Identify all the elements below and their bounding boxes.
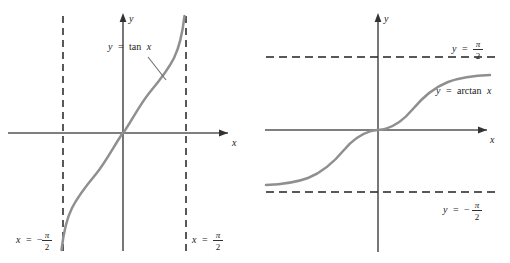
tangent-x-axis-label: x (231, 137, 237, 148)
tangent-right-asymptote-numerator: π (216, 230, 221, 240)
tangent-label-leader-line (148, 57, 166, 80)
tangent-function-label: y = tan x (107, 41, 152, 52)
tangent-right-asymptote-denominator: 2 (216, 242, 221, 252)
tangent-left-asymptote-numerator: π (45, 230, 50, 240)
arctangent-lower-asymptote-denominator: 2 (475, 212, 480, 222)
tangent-x-axis-arrowhead (219, 130, 228, 137)
arctangent-function-label: y = arctan x (435, 85, 492, 96)
arctangent-x-axis-arrowhead (478, 127, 487, 134)
arctangent-lower-asymptote-label-lhs: y = − (442, 204, 470, 215)
tangent-y-axis-label: y (128, 13, 134, 24)
math-figure-tangent-and-arctangent: x y y = tan x x = − π 2 (0, 0, 510, 263)
tangent-x-axis (8, 130, 228, 137)
tangent-left-asymptote-label: x = − π 2 (15, 230, 52, 252)
tangent-panel: x y y = tan x x = − π 2 (8, 13, 237, 252)
arctangent-y-axis-label: y (383, 13, 389, 24)
arctangent-panel: x y y = π 2 y = arctan x (265, 13, 500, 252)
arctangent-x-axis-label: x (489, 134, 495, 145)
tangent-left-asymptote-denominator: 2 (45, 242, 50, 252)
arctangent-y-axis-arrowhead (375, 13, 382, 22)
tangent-right-asymptote-label-lhs: x = (191, 234, 208, 245)
tangent-y-axis-arrowhead (120, 13, 127, 22)
tangent-left-asymptote-label-lhs: x = − (15, 234, 43, 245)
arctangent-upper-asymptote-numerator: π (476, 39, 481, 49)
arctangent-upper-asymptote-label-lhs: y = (451, 43, 468, 54)
arctangent-y-axis (375, 13, 382, 252)
arctangent-upper-asymptote-denominator: 2 (476, 51, 481, 61)
tangent-right-asymptote-label: x = π 2 (191, 230, 223, 252)
arctangent-lower-asymptote-numerator: π (475, 200, 480, 210)
arctangent-lower-asymptote-label: y = − π 2 (442, 200, 482, 222)
